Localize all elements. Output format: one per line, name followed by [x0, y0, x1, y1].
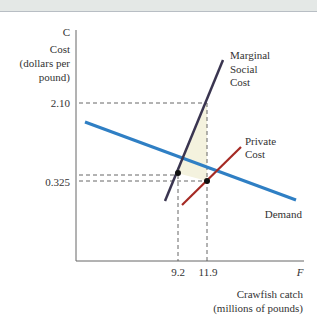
- x-tick-11-9: 11.9: [199, 266, 218, 278]
- private-cost-label-line-1: Private: [245, 135, 276, 147]
- chart: C Cost (dollars per pound) 2.10 0.325 9.…: [0, 0, 317, 325]
- y-axis-label-line-2: (dollars per: [20, 57, 71, 70]
- msc-label-line-2: Social: [230, 63, 258, 75]
- y-tick-0-325: 0.325: [45, 176, 70, 188]
- efficient-equilibrium-point: [175, 170, 181, 176]
- y-axis-symbol: C: [63, 26, 70, 38]
- demand-label: Demand: [265, 208, 303, 220]
- deadweight-loss-area: [177, 103, 207, 181]
- y-axis-label-line-1: Cost: [50, 43, 70, 55]
- y-axis-label-line-3: pound): [39, 71, 71, 84]
- marginal-social-cost-curve: [165, 60, 223, 201]
- x-axis-label-line-2: (millions of pounds): [213, 302, 303, 315]
- y-tick-2-10: 2.10: [51, 97, 71, 109]
- x-axis-symbol: F: [296, 266, 304, 278]
- msc-label-line-3: Cost: [230, 76, 250, 88]
- msc-label-line-1: Marginal: [230, 49, 270, 61]
- x-tick-9-2: 9.2: [171, 266, 185, 278]
- private-equilibrium-point: [204, 178, 210, 184]
- private-cost-label-line-2: Cost: [245, 148, 265, 160]
- x-axis-label-line-1: Crawfish catch: [237, 288, 304, 300]
- demand-curve: [85, 122, 296, 200]
